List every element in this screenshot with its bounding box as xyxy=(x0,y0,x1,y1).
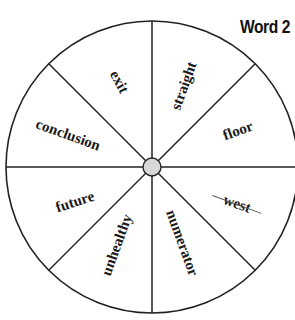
wheel-diagram xyxy=(0,0,295,320)
word-wheel-worksheet: Word 2 exit straight floor west numerato… xyxy=(0,0,295,320)
wheel-hub xyxy=(143,158,161,176)
worksheet-title: Word 2 xyxy=(240,16,290,38)
